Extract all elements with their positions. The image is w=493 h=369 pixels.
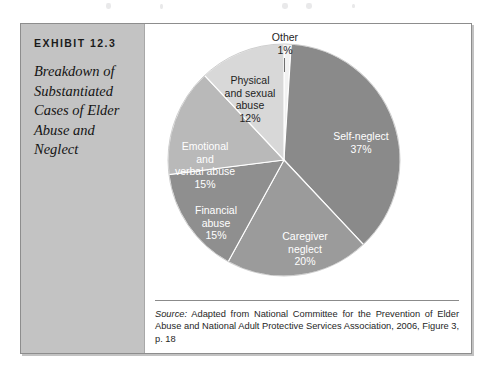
scan-artifact-strip <box>0 0 493 14</box>
exhibit-title: Breakdown of Substantiated Cases of Elde… <box>34 62 133 160</box>
pie-slice-group <box>168 44 400 276</box>
exhibit-frame: EXHIBIT 12.3 Breakdown of Substantiated … <box>20 23 472 354</box>
exhibit-number-label: EXHIBIT 12.3 <box>34 37 133 49</box>
exhibit-caption-panel: EXHIBIT 12.3 Breakdown of Substantiated … <box>21 24 145 353</box>
source-note-label: Source: <box>155 309 187 319</box>
other-slice-leader-line <box>284 58 285 72</box>
pie-chart-svg <box>145 24 472 296</box>
source-note-body: Adapted from National Committee for the … <box>155 309 459 344</box>
pie-chart: Other 1% Physical and sexual abuse 12% S… <box>145 24 472 296</box>
source-divider <box>155 300 459 301</box>
source-note: Source: Adapted from National Committee … <box>155 300 459 345</box>
exhibit-content-panel: Other 1% Physical and sexual abuse 12% S… <box>145 24 471 353</box>
source-note-text: Source: Adapted from National Committee … <box>155 308 459 345</box>
